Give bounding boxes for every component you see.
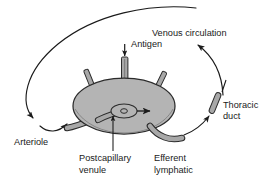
label-efferent-line2: lymphatic xyxy=(154,165,193,175)
thoracic-duct-capsule xyxy=(208,92,221,114)
label-thoracic-duct-line2: duct xyxy=(223,111,241,121)
label-postcapillary-line2: venule xyxy=(79,165,106,175)
label-postcapillary-line1: Postcapillary xyxy=(79,153,131,163)
label-venous-circulation: Venous circulation xyxy=(152,28,227,38)
venous-return-arc xyxy=(198,45,223,95)
label-efferent-line1: Efferent xyxy=(154,153,186,163)
label-antigen: Antigen xyxy=(131,39,162,49)
label-arteriole: Arteriole xyxy=(14,137,48,147)
efferent-lymphatic-vessel xyxy=(150,126,182,139)
label-thoracic-duct-line1: Thoracic xyxy=(223,100,259,110)
efferent-to-duct-arrow xyxy=(184,116,209,135)
arteriole-entry-arc xyxy=(40,124,67,131)
lymph-node-diagram: Antigen Venous circulation Thoracic duct… xyxy=(0,0,277,186)
